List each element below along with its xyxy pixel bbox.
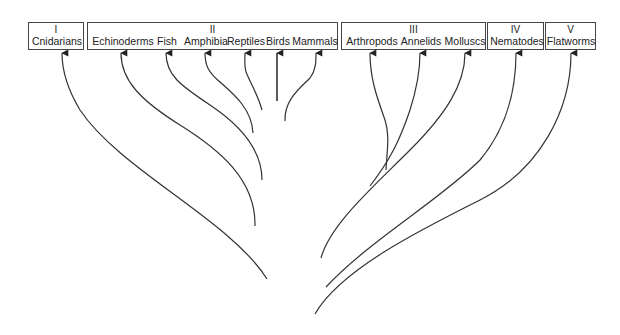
branch-molluscs xyxy=(321,53,465,258)
tree-branches xyxy=(0,0,620,335)
branch-reptiles xyxy=(245,53,262,110)
branch-echinoderms xyxy=(121,53,255,226)
branch-mammals xyxy=(285,53,316,121)
branch-fish xyxy=(166,53,262,180)
branch-cnidarians xyxy=(62,53,267,279)
branch-flatworms xyxy=(315,53,571,314)
branch-annelids xyxy=(370,53,420,186)
branch-nematodes xyxy=(326,53,516,287)
branch-amphibia xyxy=(205,53,253,133)
branch-arthropods xyxy=(370,53,388,170)
